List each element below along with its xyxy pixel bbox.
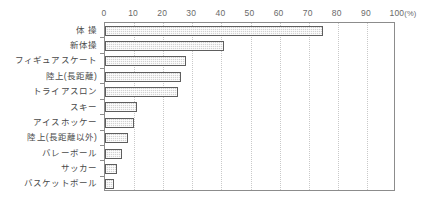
bar xyxy=(105,41,224,51)
x-tick-label-80: 80 xyxy=(332,8,342,18)
category-label: トライアスロン xyxy=(33,86,97,96)
category-label: 体 操 xyxy=(76,25,97,35)
bar-row xyxy=(105,115,394,130)
bar-row xyxy=(105,131,394,146)
bar-row xyxy=(105,69,394,84)
bar-row xyxy=(105,54,394,69)
bar xyxy=(105,102,137,112)
bar-row xyxy=(105,23,394,38)
x-tick-label-30: 30 xyxy=(186,8,196,18)
x-tick-label-10: 10 xyxy=(128,8,138,18)
bar-row xyxy=(105,100,394,115)
bar xyxy=(105,164,117,174)
x-tick-label-20: 20 xyxy=(157,8,167,18)
x-tick-label-40: 40 xyxy=(215,8,225,18)
category-label: バスケットボール xyxy=(24,178,97,188)
category-label: 新体操 xyxy=(70,40,97,50)
bar-row xyxy=(105,38,394,53)
bar xyxy=(105,179,114,189)
bar xyxy=(105,72,181,82)
horizontal-bar-chart: 0102030405060708090100(%) 体 操新体操フィギュアスケー… xyxy=(0,0,431,205)
category-label: バレーボール xyxy=(42,148,97,158)
x-tick-label-90: 90 xyxy=(361,8,371,18)
bar xyxy=(105,56,186,66)
category-label: 陸上(長距離以外) xyxy=(27,132,97,142)
plot-area xyxy=(104,22,395,191)
bar-row xyxy=(105,84,394,99)
x-tick-label-60: 60 xyxy=(274,8,284,18)
x-tick-label-70: 70 xyxy=(303,8,313,18)
bar-row xyxy=(105,146,394,161)
category-label: サッカー xyxy=(61,163,97,173)
x-tick-label-0: 0 xyxy=(102,8,107,18)
category-label: アイスホッケー xyxy=(33,117,97,127)
bar-row xyxy=(105,161,394,176)
bar-rows xyxy=(105,23,394,190)
bar xyxy=(105,133,128,143)
category-label: スキー xyxy=(70,102,97,112)
bar xyxy=(105,87,178,97)
x-tick-label-50: 50 xyxy=(245,8,255,18)
x-tick-label-100: 100(%) xyxy=(389,8,416,19)
bar xyxy=(105,149,122,159)
bar xyxy=(105,26,323,36)
category-label: フィギュアスケート xyxy=(15,55,97,65)
category-label: 陸上(長距離) xyxy=(46,71,97,81)
bar-row xyxy=(105,177,394,192)
bar xyxy=(105,118,134,128)
